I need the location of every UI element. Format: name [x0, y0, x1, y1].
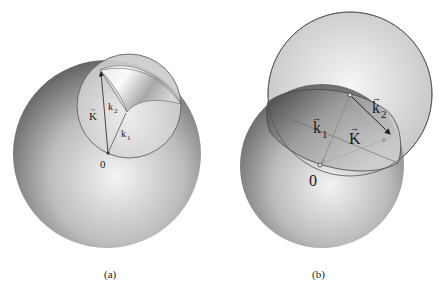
label-k1: k: [121, 128, 126, 139]
label-k2-sub: 2: [114, 107, 118, 115]
caption-b: (b): [312, 268, 325, 280]
figure-canvas: K → k 2 k 1 0 k 1 → K → k 2 → 0: [0, 0, 445, 296]
caption-a: (a): [104, 268, 116, 280]
label-origin: 0: [100, 158, 106, 170]
label-k1-arrow: →: [312, 113, 321, 123]
origin-point: [106, 151, 109, 154]
label-k1-sub: 1: [127, 134, 131, 142]
center-point: [348, 93, 352, 97]
label-K-arrow: →: [350, 123, 359, 133]
label-origin: 0: [309, 172, 317, 189]
label-k2-sub: 2: [381, 108, 387, 120]
label-k2-arrow: →: [372, 93, 381, 103]
label-K-arrow: →: [89, 105, 96, 113]
panel-a: K → k 2 k 1 0: [13, 54, 201, 248]
label-k1-sub: 1: [322, 128, 328, 140]
origin-point: [318, 163, 322, 167]
label-k2: k: [108, 101, 113, 112]
panel-b: k 1 → K → k 2 → 0: [240, 12, 432, 248]
